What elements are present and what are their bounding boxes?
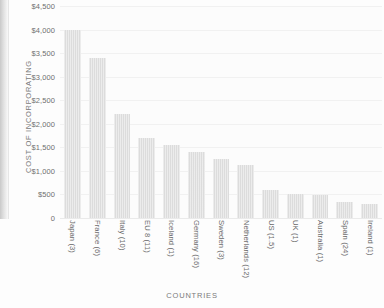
x-axis-tick-label: US (1.5) <box>266 220 275 249</box>
bar <box>89 58 106 218</box>
y-axis-tick-1500: $1,500 <box>31 143 55 152</box>
bar-slot <box>159 6 184 218</box>
x-tick-slot: Germany (16) <box>184 220 209 284</box>
x-axis-tick-label: Iceland (1) <box>167 220 176 257</box>
bar-slot <box>233 6 258 218</box>
bar-slot <box>209 6 234 218</box>
x-axis-tick-label: Sweden (3) <box>216 220 225 260</box>
x-axis-tick-label: Germany (16) <box>192 220 201 268</box>
bar <box>312 195 329 218</box>
y-axis-tick-4500: $4,500 <box>31 2 55 11</box>
bar-slot <box>85 6 110 218</box>
y-axis-tick-3000: $3,000 <box>31 72 55 81</box>
bar <box>336 202 353 218</box>
y-axis-tick-500: $500 <box>38 190 55 199</box>
bar <box>287 194 304 218</box>
x-tick-slot: Sweden (3) <box>209 220 234 284</box>
bar <box>163 145 180 218</box>
bar-series <box>60 6 382 218</box>
bar <box>138 138 155 218</box>
x-axis-tick-labels: Japan (3)France (6)Italy (10)EU 8 (11)Ic… <box>60 220 382 284</box>
x-axis-tick-label: UK (1) <box>291 220 300 243</box>
x-axis-title: Countries <box>0 291 384 300</box>
x-tick-slot: France (6) <box>85 220 110 284</box>
y-axis-tick-2500: $2,500 <box>31 96 55 105</box>
bar <box>213 159 230 218</box>
y-axis-tick-4000: $4,000 <box>31 25 55 34</box>
x-tick-slot: Italy (10) <box>110 220 135 284</box>
x-tick-slot: Japan (3) <box>60 220 85 284</box>
y-axis-tick-0: 0 <box>51 214 55 223</box>
x-axis-tick-label: EU 8 (11) <box>142 220 151 253</box>
gridline-0 <box>60 218 382 219</box>
x-axis-tick-label: Netherlands (12) <box>241 220 250 278</box>
bar-slot <box>258 6 283 218</box>
page-edge-line <box>8 0 9 219</box>
x-tick-slot: EU 8 (11) <box>134 220 159 284</box>
x-axis-tick-label: Italy (10) <box>117 220 126 251</box>
bar <box>262 190 279 218</box>
bar-slot <box>110 6 135 218</box>
bar-slot <box>308 6 333 218</box>
y-axis-tick-2000: $2,000 <box>31 119 55 128</box>
plot-area <box>60 6 382 218</box>
x-axis-tick-label: Japan (3) <box>68 220 77 253</box>
y-axis-tick-1000: $1,000 <box>31 166 55 175</box>
bar <box>64 30 81 218</box>
x-tick-slot: Australia (1) <box>308 220 333 284</box>
bar <box>188 152 205 218</box>
bar <box>361 204 378 218</box>
bar <box>114 114 131 218</box>
y-axis-tick-3500: $3,500 <box>31 49 55 58</box>
bar-slot <box>134 6 159 218</box>
x-axis-tick-label: Australia (1) <box>316 220 325 262</box>
bar-slot <box>60 6 85 218</box>
x-axis-tick-label: Spain (24) <box>340 220 349 256</box>
bar-slot <box>184 6 209 218</box>
plot-wrapper: 0$500$1,000$1,500$2,000$2,500$3,000$3,50… <box>22 6 382 222</box>
bar-slot <box>283 6 308 218</box>
bar-slot <box>332 6 357 218</box>
chart-page: Cost of Incorporating 0$500$1,000$1,500$… <box>0 0 384 308</box>
x-tick-slot: UK (1) <box>283 220 308 284</box>
x-tick-slot: Netherlands (12) <box>233 220 258 284</box>
x-axis-tick-label: France (6) <box>93 220 102 256</box>
bar-slot <box>357 6 382 218</box>
x-tick-slot: Spain (24) <box>332 220 357 284</box>
x-tick-slot: US (1.5) <box>258 220 283 284</box>
x-tick-slot: Iceland (1) <box>159 220 184 284</box>
bar <box>237 165 254 218</box>
y-axis-tick-labels: 0$500$1,000$1,500$2,000$2,500$3,000$3,50… <box>22 6 58 222</box>
x-tick-slot: Ireland (1) <box>357 220 382 284</box>
x-axis-tick-label: Ireland (1) <box>365 220 374 256</box>
